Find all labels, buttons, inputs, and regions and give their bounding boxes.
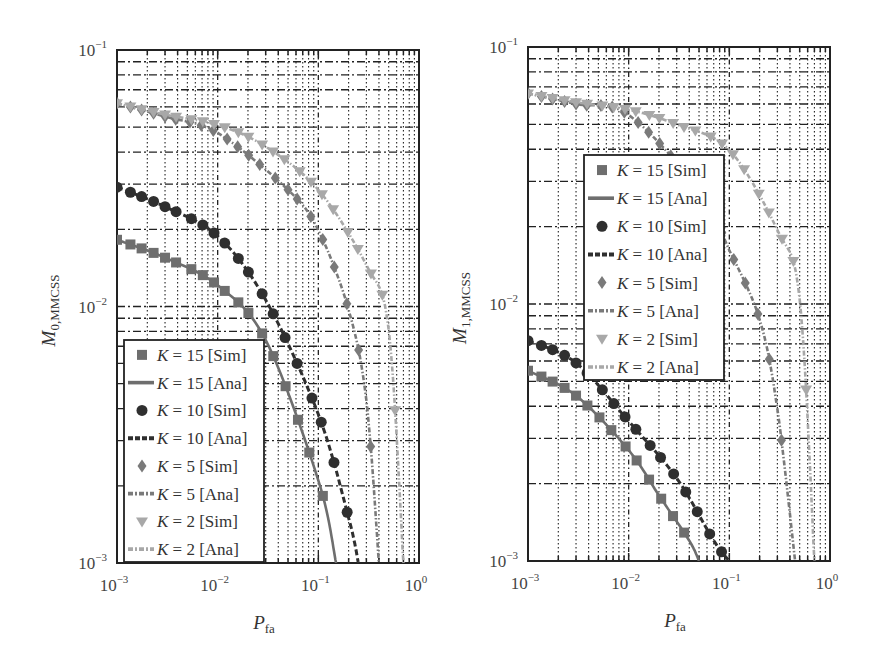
marker-triangle xyxy=(763,209,775,219)
marker-square xyxy=(632,455,642,465)
marker-square xyxy=(149,248,159,258)
marker-triangle xyxy=(219,123,231,133)
legend-label: K = 5 [Ana] xyxy=(156,485,239,504)
marker-diamond xyxy=(366,440,375,453)
marker-diamond xyxy=(255,158,264,171)
marker-triangle xyxy=(376,291,388,301)
marker-circle xyxy=(655,452,666,463)
marker-triangle xyxy=(753,190,765,200)
marker-square xyxy=(548,377,558,387)
marker-square xyxy=(112,235,122,245)
marker-circle xyxy=(620,411,631,422)
marker-triangle xyxy=(278,155,290,165)
legend-label: K = 5 [Sim] xyxy=(156,457,238,476)
y-tick-label: 10−1 xyxy=(78,38,107,60)
marker-circle xyxy=(536,340,547,351)
marker-square xyxy=(281,381,291,391)
legend-label: K = 2 [Sim] xyxy=(156,512,238,531)
legend-marker-circle-icon xyxy=(597,221,608,232)
marker-circle xyxy=(306,393,317,404)
x-tick-label: 10−2 xyxy=(200,573,229,595)
legend: K = 15 [Sim]K = 15 [Ana]K = 10 [Sim]K = … xyxy=(124,340,264,562)
y-axis-label: M0,MMCSS xyxy=(38,275,62,348)
marker-diamond xyxy=(233,140,242,153)
marker-circle xyxy=(197,219,208,230)
marker-diamond xyxy=(753,307,762,320)
marker-square xyxy=(523,366,533,376)
legend-label: K = 10 [Sim] xyxy=(156,401,246,420)
marker-triangle xyxy=(316,190,328,200)
marker-circle xyxy=(571,357,582,368)
marker-circle xyxy=(316,417,327,428)
y-tick-label: 10−2 xyxy=(78,295,107,317)
marker-square xyxy=(125,239,135,249)
marker-square xyxy=(220,286,230,296)
marker-square xyxy=(137,243,147,253)
marker-circle xyxy=(547,344,558,355)
x-axis-label: Pfa xyxy=(663,610,686,634)
x-tick-label: 100 xyxy=(405,573,428,595)
y-tick-label: 10−2 xyxy=(489,292,518,314)
marker-square xyxy=(606,425,616,435)
marker-triangle xyxy=(305,178,317,188)
marker-circle xyxy=(716,546,727,557)
marker-diamond xyxy=(306,210,315,223)
legend-label: K = 10 [Sim] xyxy=(616,217,706,236)
marker-circle xyxy=(171,206,182,217)
x-tick-label: 10−1 xyxy=(301,573,330,595)
legend-label: K = 15 [Sim] xyxy=(156,346,246,365)
legend-marker-square-icon xyxy=(137,350,147,360)
marker-circle xyxy=(136,191,147,202)
marker-diamond xyxy=(729,253,738,266)
marker-triangle xyxy=(352,245,364,255)
marker-diamond xyxy=(634,116,643,129)
marker-circle xyxy=(148,196,159,207)
y-tick-label: 10−3 xyxy=(78,551,107,573)
x-axis-label: Pfa xyxy=(252,612,275,636)
marker-circle xyxy=(559,350,570,361)
x-tick-label: 10−1 xyxy=(712,571,741,593)
legend-label: K = 5 [Ana] xyxy=(616,302,699,321)
marker-circle xyxy=(125,187,136,198)
marker-triangle xyxy=(800,386,812,396)
marker-circle xyxy=(597,384,608,395)
marker-circle xyxy=(692,506,703,517)
legend-label: K = 15 [Ana] xyxy=(616,189,707,208)
right-panel: 10−110−210−310−310−210−1100PfaM1,MMCSSK … xyxy=(449,35,839,634)
marker-circle xyxy=(268,308,279,319)
legend-label: K = 2 [Ana] xyxy=(616,358,699,377)
legend-label: K = 5 [Sim] xyxy=(616,274,698,293)
marker-triangle xyxy=(389,406,401,416)
marker-square xyxy=(160,253,170,263)
marker-circle xyxy=(342,507,353,518)
marker-square xyxy=(536,372,546,382)
marker-circle xyxy=(608,398,619,409)
marker-circle xyxy=(243,267,254,278)
marker-triangle xyxy=(787,257,799,267)
marker-diamond xyxy=(354,344,363,357)
marker-square xyxy=(656,494,666,504)
marker-square xyxy=(209,277,219,287)
marker-circle xyxy=(186,213,197,224)
y-tick-label: 10−1 xyxy=(489,35,518,57)
marker-circle xyxy=(292,358,303,369)
marker-triangle xyxy=(342,228,354,238)
legend-label: K = 2 [Ana] xyxy=(156,540,239,559)
marker-square xyxy=(318,491,328,501)
marker-diamond xyxy=(342,297,351,310)
marker-triangle xyxy=(678,123,690,133)
legend-label: K = 10 [Ana] xyxy=(156,429,247,448)
marker-square xyxy=(560,383,570,393)
marker-circle xyxy=(112,182,123,193)
marker-square xyxy=(198,270,208,280)
marker-square xyxy=(571,391,581,401)
marker-square xyxy=(171,257,181,267)
marker-circle xyxy=(328,457,339,468)
marker-circle xyxy=(257,288,268,299)
marker-circle xyxy=(668,468,679,479)
legend-label: K = 15 [Sim] xyxy=(616,161,706,180)
y-axis-label: M1,MMCSS xyxy=(449,272,473,345)
y-tick-label: 10−3 xyxy=(489,549,518,571)
marker-circle xyxy=(219,238,230,249)
marker-circle xyxy=(704,528,715,539)
